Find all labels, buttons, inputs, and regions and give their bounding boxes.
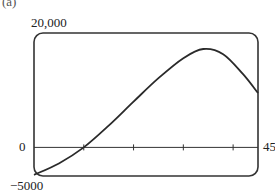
line-chart bbox=[0, 0, 275, 191]
data-curve bbox=[34, 49, 258, 175]
